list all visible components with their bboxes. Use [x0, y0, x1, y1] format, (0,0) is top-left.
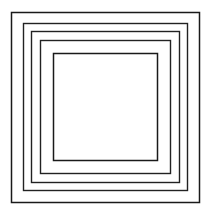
concentric-squares-drawing [0, 0, 212, 214]
figure-canvas [0, 0, 212, 214]
